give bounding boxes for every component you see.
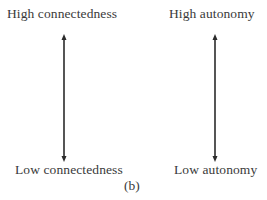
- right-top-label: High autonomy: [169, 7, 255, 21]
- left-top-label: High connectedness: [7, 7, 117, 21]
- left-bottom-label: Low connectedness: [15, 163, 123, 177]
- double-arrow-icon-left: [59, 33, 69, 163]
- double-arrow-icon-right: [210, 33, 220, 163]
- figure-caption: (b): [124, 179, 140, 193]
- right-bottom-label: Low autonomy: [174, 163, 257, 177]
